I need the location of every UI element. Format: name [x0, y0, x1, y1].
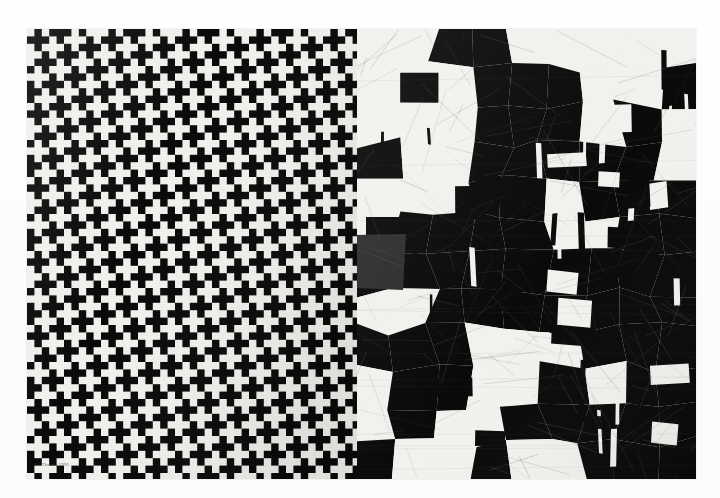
- quilt-surface: M. Thomas 1996: [27, 29, 696, 479]
- quilt-scene: M. Thomas 1996 Two-Panel Black and White…: [0, 0, 720, 498]
- right-improvisational-panel: [357, 29, 696, 479]
- left-cross-panel: [27, 29, 357, 479]
